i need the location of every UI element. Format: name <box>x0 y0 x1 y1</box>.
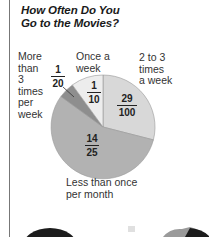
fraction-1-20: 1 20 <box>51 64 65 89</box>
label-line: Less than once <box>66 177 137 189</box>
label-less-than-once-per-month: Less than once per month <box>66 177 137 200</box>
fraction-1-10: 1 10 <box>87 80 101 105</box>
label-more-than-3-times-per-week: More than 3 times per week <box>18 51 43 120</box>
label-2-to-3-times-a-week: 2 to 3 times a week <box>139 52 172 87</box>
fraction-denominator: 20 <box>51 77 65 89</box>
label-line: Once a <box>76 51 110 63</box>
fraction-denominator: 100 <box>117 106 137 118</box>
fraction-29-100: 29 100 <box>117 93 137 118</box>
decor-dark-shape-left <box>22 228 78 237</box>
decor-small-square <box>128 226 135 232</box>
label-line: 3 <box>18 74 43 86</box>
label-once-a-week: Once a week <box>76 51 110 74</box>
fraction-numerator: 14 <box>85 133 99 146</box>
label-line: More <box>18 51 43 63</box>
fraction-numerator: 1 <box>51 64 65 77</box>
label-line: week <box>76 63 110 75</box>
fraction-denominator: 10 <box>87 93 101 105</box>
label-line: a week <box>139 75 172 87</box>
label-line: per <box>18 97 43 109</box>
fraction-denominator: 25 <box>85 146 99 158</box>
label-line: week <box>18 109 43 121</box>
fraction-numerator: 1 <box>87 80 101 93</box>
label-line: per month <box>66 189 137 201</box>
fraction-numerator: 29 <box>117 93 137 106</box>
fraction-14-25: 14 25 <box>85 133 99 158</box>
label-line: 2 to 3 <box>139 52 172 64</box>
